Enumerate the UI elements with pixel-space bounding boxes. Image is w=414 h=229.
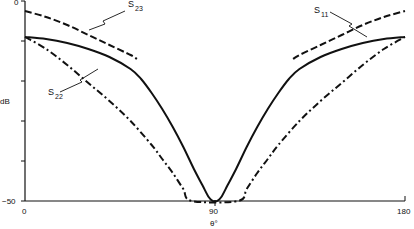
- s22-label: S22: [48, 87, 63, 100]
- s22-leader: [60, 69, 98, 92]
- y-tick-label-0: 0: [14, 0, 19, 7]
- curve-s23: [293, 11, 405, 59]
- x-tick-label-90: 90: [209, 207, 218, 216]
- x-tick-label-0: 0: [22, 207, 27, 216]
- curve-s11: [25, 37, 405, 201]
- s11-label: S11: [314, 5, 328, 18]
- x-axis-label: θ°: [210, 219, 218, 228]
- y-axis-label: dB: [0, 97, 10, 106]
- curve-s23: [25, 11, 137, 59]
- s23-label: S23: [128, 0, 143, 12]
- curve-s22: [25, 37, 405, 203]
- s-parameter-chart: 0 −50 0 90 180 θ° dB S23 S11 S22: [0, 0, 414, 229]
- y-tick-label-minus50: −50: [2, 197, 16, 206]
- s23-leader: [89, 11, 125, 30]
- curves: [25, 11, 405, 203]
- x-tick-label-180: 180: [397, 207, 411, 216]
